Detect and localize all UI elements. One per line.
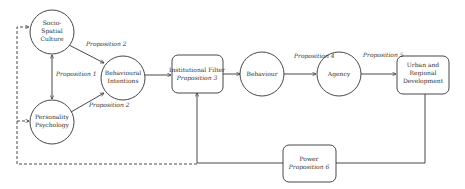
node-label: Intentions	[108, 77, 139, 84]
edge-label-proposition-4: Proposition 4	[293, 52, 335, 60]
node-socio-spatial-culture: Socio- Spatial Culture	[30, 10, 74, 54]
node-label: Behavioural	[105, 69, 142, 76]
node-label: Behaviour	[246, 70, 277, 77]
node-label: Spatial	[41, 27, 62, 35]
edge-culture-to-intentions	[69, 45, 104, 63]
node-label: Culture	[40, 35, 64, 42]
node-power: Power Proposition 6	[283, 145, 336, 182]
node-label: Regional	[410, 69, 437, 77]
edge-label-proposition-2-bottom: Proposition 2	[88, 101, 130, 109]
node-label: Socio-	[43, 19, 62, 26]
node-institutional-filter: Institutional Filter Proposition 3	[169, 55, 225, 93]
node-behavioural-intentions: Behavioural Intentions	[101, 56, 145, 100]
node-behaviour: Behaviour	[240, 52, 284, 96]
node-label: Development	[403, 77, 444, 85]
node-proposition: Proposition 3	[176, 74, 218, 82]
node-label: Power	[300, 155, 319, 162]
node-personality-psychology: Personality Psychology	[30, 100, 74, 144]
node-label: Urban and	[407, 61, 440, 68]
node-label: Agency	[327, 70, 351, 78]
node-label: Personality	[35, 113, 70, 121]
node-label: Psychology	[35, 121, 70, 129]
edge-label-proposition-5: Proposition 5	[362, 51, 404, 59]
edge-label-proposition-1: Proposition 1	[55, 70, 97, 78]
edge-label-proposition-2-top: Proposition 2	[85, 40, 127, 48]
node-urban-regional-development: Urban and Regional Development	[397, 56, 449, 94]
node-proposition: Proposition 6	[288, 163, 330, 171]
edge-urban-to-power	[336, 94, 425, 163]
node-label: Institutional Filter	[169, 66, 225, 73]
conceptual-framework-diagram: Socio- Spatial Culture Personality Psych…	[0, 0, 465, 189]
